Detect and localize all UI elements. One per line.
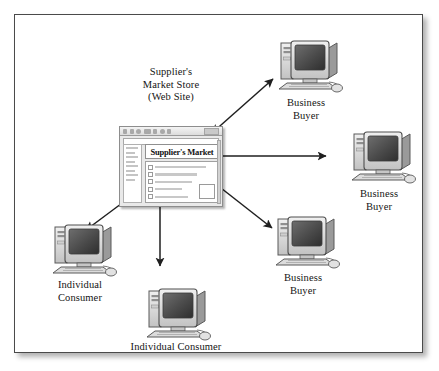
address-box[interactable] (204, 128, 219, 135)
sidebar-row[interactable] (126, 152, 136, 154)
home-icon[interactable] (153, 129, 157, 134)
reload-icon[interactable] (144, 129, 151, 134)
business-buyer-right-label: Business Buyer (339, 188, 419, 213)
sidebar-row[interactable] (126, 161, 136, 163)
site-title: Supplier's Market (145, 144, 219, 159)
browser-content: Supplier's Market (123, 144, 219, 203)
business-buyer-bottom (264, 209, 342, 271)
checkbox-icon[interactable] (148, 172, 153, 177)
sidebar-row[interactable] (126, 156, 138, 158)
list-item[interactable] (148, 165, 216, 170)
individual-consumer-left-label: Individual Consumer (37, 279, 123, 304)
print-icon[interactable] (167, 129, 171, 134)
sidebar-row[interactable] (126, 170, 136, 172)
sidebar-row[interactable] (126, 179, 136, 181)
computer-icon (264, 209, 342, 271)
forward-icon[interactable] (130, 129, 134, 134)
browser-sidebar[interactable] (123, 144, 142, 203)
computer-icon (340, 124, 418, 186)
computer-icon (41, 217, 119, 279)
sidebar-row[interactable] (126, 147, 138, 149)
list-item-text (155, 173, 197, 175)
checkbox-icon[interactable] (148, 179, 153, 184)
sidebar-row[interactable] (126, 174, 138, 176)
business-buyer-top-label: Business Buyer (266, 97, 346, 122)
vertical-scrollbar[interactable] (217, 140, 221, 204)
computer-icon (267, 33, 345, 95)
browser-main-pane: Supplier's Market (145, 144, 219, 203)
list-item[interactable] (148, 172, 216, 177)
individual-consumer-bottom (135, 281, 213, 343)
business-buyer-bottom-label: Business Buyer (263, 272, 343, 297)
checkbox-icon[interactable] (148, 187, 153, 192)
list-item-text (155, 188, 182, 190)
stop-icon[interactable] (136, 129, 141, 134)
business-buyer-top (267, 33, 345, 95)
business-buyer-right (340, 124, 418, 186)
list-item-text (155, 196, 188, 198)
diagram-frame: Supplier's Market Store (Web Site) (14, 14, 423, 353)
individual-consumer-left (41, 217, 119, 279)
browser-toolbar[interactable] (120, 127, 222, 136)
list-item-text (155, 166, 205, 168)
supplier-store-browser-window[interactable]: Supplier's Market (119, 126, 223, 207)
checkbox-icon[interactable] (148, 194, 153, 199)
back-icon[interactable] (123, 129, 127, 134)
search-icon[interactable] (160, 129, 165, 134)
list-item-text (155, 181, 192, 183)
individual-consumer-bottom-label: Individual Consumer (116, 341, 236, 354)
checkbox-icon[interactable] (148, 165, 153, 170)
computer-icon (135, 281, 213, 343)
product-thumbnail (199, 184, 215, 199)
sidebar-row[interactable] (126, 165, 138, 167)
supplier-store-label: Supplier's Market Store (Web Site) (115, 66, 227, 104)
product-list[interactable] (145, 161, 219, 203)
